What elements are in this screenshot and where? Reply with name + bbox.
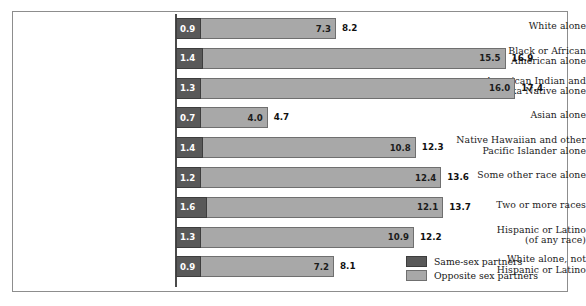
category-label-line: Two or more races — [418, 200, 586, 211]
bar-value-opposite-sex: 16.0 — [489, 83, 510, 93]
category-label: White alone — [418, 21, 586, 32]
bar-value-opposite-sex: 12.1 — [417, 202, 438, 212]
chart-row: Black or AfricanAmerican alone1.415.516.… — [0, 46, 586, 72]
bar-segment-same-sex: 1.3 — [176, 227, 201, 248]
chart-row: White alone0.97.38.2 — [0, 16, 586, 42]
stacked-bar: 1.410.8 — [176, 137, 416, 158]
bar-total-label: 12.2 — [420, 232, 442, 242]
stacked-bar: 0.74.0 — [176, 107, 268, 128]
category-label: Some other race alone — [418, 170, 586, 181]
bar-total-label: 16.9 — [512, 53, 534, 63]
legend-label-same-sex: Same-sex partners — [434, 255, 522, 268]
chart-row: Hispanic or Latino(of any race)1.310.912… — [0, 225, 586, 251]
category-label-line: White alone — [418, 21, 586, 32]
bar-segment-same-sex: 1.2 — [176, 167, 201, 188]
bar-segment-same-sex: 1.6 — [176, 197, 207, 218]
stacked-bar: 1.612.1 — [176, 197, 443, 218]
bar-value-same-sex: 1.3 — [180, 83, 195, 93]
stacked-bar: 1.415.5 — [176, 48, 506, 69]
chart-row: Two or more races1.612.113.7 — [0, 195, 586, 221]
bar-value-same-sex: 1.4 — [180, 143, 195, 153]
chart-row: American Indian andAlaska Native alone1.… — [0, 76, 586, 102]
bar-value-same-sex: 1.2 — [180, 173, 195, 183]
chart-row: Native Hawaiian and otherPacific Islande… — [0, 135, 586, 161]
bar-value-opposite-sex: 10.9 — [388, 232, 409, 242]
bar-total-label: 8.1 — [340, 261, 356, 271]
bar-segment-same-sex: 1.4 — [176, 48, 203, 69]
category-label: Asian alone — [418, 110, 586, 121]
bar-value-opposite-sex: 10.8 — [390, 143, 411, 153]
bar-segment-opposite-sex: 12.1 — [207, 197, 443, 218]
legend-swatch-opposite-sex-icon — [406, 270, 427, 281]
bar-segment-opposite-sex: 10.9 — [201, 227, 414, 248]
stacked-bar: 0.97.3 — [176, 18, 336, 39]
bar-segment-same-sex: 0.9 — [176, 256, 201, 277]
stacked-bar: 0.97.2 — [176, 256, 334, 277]
legend-item-same-sex: Same-sex partners — [406, 255, 556, 268]
bar-total-label: 12.3 — [422, 142, 444, 152]
chart-row: Asian alone0.74.04.7 — [0, 105, 586, 131]
bar-total-label: 13.6 — [447, 172, 469, 182]
bar-segment-opposite-sex: 7.2 — [201, 256, 334, 277]
category-label: Hispanic or Latino(of any race) — [418, 225, 586, 246]
figure-container: White alone0.97.38.2Black or AfricanAmer… — [0, 0, 586, 306]
bar-value-same-sex: 1.4 — [180, 53, 195, 63]
legend-label-opposite-sex: Opposite sex partners — [434, 269, 538, 282]
bar-segment-opposite-sex: 4.0 — [201, 107, 268, 128]
chart-row: Some other race alone1.212.413.6 — [0, 165, 586, 191]
bar-segment-same-sex: 0.7 — [176, 107, 201, 128]
bar-value-same-sex: 0.7 — [180, 113, 195, 123]
bar-value-same-sex: 1.6 — [180, 202, 195, 212]
stacked-bar: 1.212.4 — [176, 167, 441, 188]
bar-segment-same-sex: 0.9 — [176, 18, 201, 39]
category-label-line: (of any race) — [418, 235, 586, 246]
bar-segment-opposite-sex: 12.4 — [201, 167, 441, 188]
legend-item-opposite-sex: Opposite sex partners — [406, 269, 556, 282]
bar-value-same-sex: 1.3 — [180, 232, 195, 242]
category-label: Two or more races — [418, 200, 586, 211]
legend-swatch-same-sex-icon — [406, 256, 427, 267]
bar-total-label: 17.4 — [521, 83, 543, 93]
bar-value-opposite-sex: 4.0 — [247, 113, 262, 123]
bar-value-opposite-sex: 15.5 — [479, 53, 500, 63]
bar-total-label: 4.7 — [274, 112, 290, 122]
bar-value-opposite-sex: 7.3 — [316, 24, 331, 34]
stacked-bar: 1.316.0 — [176, 78, 515, 99]
bar-value-opposite-sex: 12.4 — [415, 173, 436, 183]
bar-segment-same-sex: 1.3 — [176, 78, 201, 99]
bar-segment-opposite-sex: 10.8 — [203, 137, 416, 158]
bar-value-same-sex: 0.9 — [180, 24, 195, 34]
bar-segment-opposite-sex: 16.0 — [201, 78, 515, 99]
bar-value-same-sex: 0.9 — [180, 262, 195, 272]
category-label-line: Some other race alone — [418, 170, 586, 181]
chart-legend: Same-sex partners Opposite sex partners — [406, 255, 556, 283]
bar-segment-opposite-sex: 7.3 — [201, 18, 336, 39]
category-label-line: Asian alone — [418, 110, 586, 121]
bar-total-label: 13.7 — [449, 202, 471, 212]
bar-total-label: 8.2 — [342, 23, 358, 33]
bar-segment-same-sex: 1.4 — [176, 137, 203, 158]
bar-segment-opposite-sex: 15.5 — [203, 48, 505, 69]
stacked-bar: 1.310.9 — [176, 227, 414, 248]
bar-value-opposite-sex: 7.2 — [314, 262, 329, 272]
